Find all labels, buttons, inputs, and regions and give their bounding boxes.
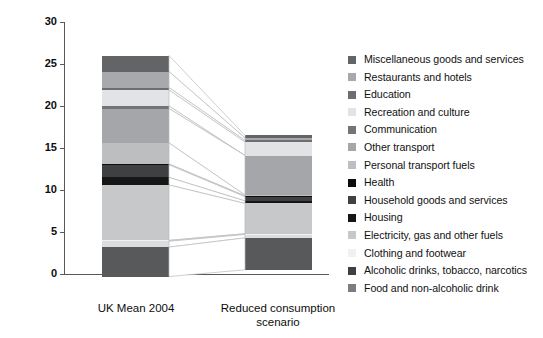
connector-band bbox=[169, 88, 245, 143]
legend-item-label: Electricity, gas and other fuels bbox=[364, 228, 503, 243]
bar-segment bbox=[245, 238, 312, 270]
connector-band bbox=[169, 72, 245, 141]
legend-item-label: Personal transport fuels bbox=[364, 158, 475, 173]
bar-segment bbox=[102, 185, 169, 240]
legend-item-label: Alcoholic drinks, tobacco, narcotics bbox=[364, 263, 527, 278]
legend-item[interactable]: Alcoholic drinks, tobacco, narcotics bbox=[348, 263, 540, 281]
y-axis-tick-label: 10 bbox=[17, 183, 57, 195]
legend-item-label: Housing bbox=[364, 210, 403, 225]
connector-band bbox=[169, 109, 245, 196]
y-axis-tick-label: 20 bbox=[17, 99, 57, 111]
connector-band bbox=[169, 235, 245, 248]
y-axis-tick bbox=[60, 232, 65, 233]
legend-item[interactable]: Food and non-alcoholic drink bbox=[348, 281, 540, 299]
y-axis-tick-label: 15 bbox=[17, 141, 57, 153]
bar-segment bbox=[102, 177, 169, 185]
connector-band bbox=[169, 234, 245, 242]
legend-item-label: Communication bbox=[364, 122, 437, 137]
legend-item[interactable]: Personal transport fuels bbox=[348, 158, 540, 176]
bar-segment bbox=[245, 142, 312, 155]
legend-swatch-icon bbox=[348, 214, 356, 222]
y-axis-tick bbox=[60, 190, 65, 191]
legend-item[interactable]: Health bbox=[348, 175, 540, 193]
legend-swatch-icon bbox=[348, 179, 356, 187]
legend-item[interactable]: Household goods and services bbox=[348, 193, 540, 211]
legend-item[interactable]: Clothing and footwear bbox=[348, 246, 540, 264]
y-axis-tick-label: 30 bbox=[17, 15, 57, 27]
bar-segment bbox=[102, 72, 169, 88]
legend-swatch-icon bbox=[348, 56, 356, 64]
legend-swatch-icon bbox=[348, 143, 356, 151]
legend-item[interactable]: Recreation and culture bbox=[348, 105, 540, 123]
y-axis-tick bbox=[60, 106, 65, 107]
legend-swatch-icon bbox=[348, 284, 356, 292]
bar-segment bbox=[102, 247, 169, 276]
x-tick-label-line1: UK Mean 2004 bbox=[61, 301, 211, 315]
y-axis-tick bbox=[60, 22, 65, 23]
bar-segment bbox=[102, 56, 169, 72]
connector-band bbox=[169, 106, 245, 156]
legend-swatch-icon bbox=[348, 249, 356, 257]
legend-swatch-icon bbox=[348, 91, 356, 99]
legend-swatch-icon bbox=[348, 267, 356, 275]
legend-swatch-icon bbox=[348, 161, 356, 169]
legend-item-label: Food and non-alcoholic drink bbox=[364, 281, 499, 296]
legend-swatch-icon bbox=[348, 231, 356, 239]
legend-item[interactable]: Restaurants and hotels bbox=[348, 70, 540, 88]
legend: Miscellaneous goods and servicesRestaura… bbox=[348, 52, 540, 298]
connector-band bbox=[169, 165, 245, 201]
connector-band bbox=[169, 177, 245, 203]
legend-item-label: Recreation and culture bbox=[364, 105, 470, 120]
bar-segment bbox=[245, 203, 312, 233]
x-tick-label-uk-mean-2004: UK Mean 2004 bbox=[61, 301, 211, 315]
connector-band bbox=[169, 56, 245, 138]
legend-item-label: Health bbox=[364, 175, 394, 190]
y-axis-tick-label: 25 bbox=[17, 57, 57, 69]
y-axis-tick bbox=[60, 64, 65, 65]
legend-swatch-icon bbox=[348, 126, 356, 134]
legend-swatch-icon bbox=[348, 196, 356, 204]
legend-item-label: Miscellaneous goods and services bbox=[364, 52, 524, 67]
legend-item[interactable]: Communication bbox=[348, 122, 540, 140]
legend-item[interactable]: Education bbox=[348, 87, 540, 105]
legend-item[interactable]: Other transport bbox=[348, 140, 540, 158]
plot-area: 051015202530 UK Mean 2004 Reduced consum… bbox=[64, 18, 329, 278]
legend-item-label: Restaurants and hotels bbox=[364, 70, 472, 85]
connector-band bbox=[169, 164, 245, 197]
legend-item-label: Other transport bbox=[364, 140, 435, 155]
legend-swatch-icon bbox=[348, 73, 356, 81]
legend-swatch-icon bbox=[348, 108, 356, 116]
y-axis-tick-label: 0 bbox=[17, 267, 57, 279]
legend-item-label: Household goods and services bbox=[364, 193, 507, 208]
connector-band bbox=[169, 238, 245, 277]
x-tick-label-line2: scenario bbox=[203, 315, 353, 329]
legend-item-label: Clothing and footwear bbox=[364, 246, 466, 261]
bar-segment bbox=[102, 143, 169, 164]
y-axis-tick-label: 5 bbox=[17, 225, 57, 237]
x-tick-label-line1: Reduced consumption bbox=[203, 301, 353, 315]
y-axis-tick bbox=[60, 148, 65, 149]
legend-item-label: Education bbox=[364, 87, 411, 102]
legend-item[interactable]: Miscellaneous goods and services bbox=[348, 52, 540, 70]
legend-item[interactable]: Electricity, gas and other fuels bbox=[348, 228, 540, 246]
legend-item[interactable]: Housing bbox=[348, 210, 540, 228]
bar-segment bbox=[102, 90, 169, 106]
connector-band bbox=[169, 90, 245, 156]
bar-segment bbox=[102, 109, 169, 143]
connector-band bbox=[169, 143, 245, 196]
connector-band bbox=[169, 185, 245, 240]
x-tick-label-reduced-consumption: Reduced consumption scenario bbox=[203, 301, 353, 329]
chart-figure: GHG per household per annum (tCO2-e) 051… bbox=[0, 0, 543, 338]
bar-segment bbox=[102, 165, 169, 178]
y-axis-tick bbox=[60, 274, 65, 275]
bar-segment bbox=[245, 156, 312, 195]
